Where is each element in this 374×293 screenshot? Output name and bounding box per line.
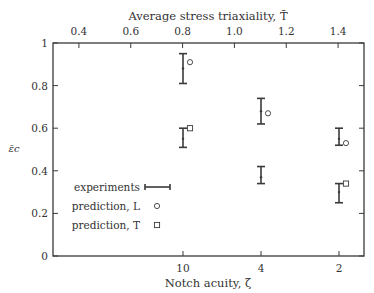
x2-tick-label: 1.2: [278, 25, 295, 37]
y-tick-label: 0.8: [31, 80, 48, 92]
prediction-L-marker: [187, 60, 192, 65]
chart: 00.20.40.60.8110420.40.60.81.01.21.4expe…: [0, 0, 374, 293]
x2-axis-title: Average stress triaxiality, T̄: [127, 9, 288, 23]
y-tick-label: 0.4: [31, 165, 48, 177]
x2-tick-label: 0.6: [122, 25, 139, 37]
error-bar-mid: [338, 191, 340, 193]
x-tick-label: 2: [336, 262, 343, 274]
x2-tick-label: 0.8: [174, 25, 191, 37]
y-axis-title: ε̄c: [9, 143, 20, 154]
y-tick-label: 1: [41, 37, 48, 49]
x-tick-label: 4: [258, 262, 265, 274]
error-bar-mid: [338, 138, 340, 140]
error-bar-mid: [182, 67, 184, 69]
x2-tick-label: 1.0: [226, 25, 243, 37]
y-tick-label: 0.6: [31, 122, 48, 134]
y-tick-label: 0: [41, 250, 48, 262]
prediction-T-marker: [187, 126, 192, 131]
error-bar-mid: [260, 110, 262, 112]
y-tick-label: 0.2: [31, 207, 48, 219]
legend-label-prediction-T: prediction, T: [72, 219, 140, 231]
x-axis-title: Notch acuity, ζ: [165, 276, 252, 290]
legend-label-experiments: experiments: [74, 181, 140, 193]
prediction-L-marker: [343, 141, 348, 146]
x2-tick-label: 0.4: [71, 25, 88, 37]
legend-label-prediction-L: prediction, L: [72, 200, 140, 212]
x2-tick-label: 1.4: [330, 25, 347, 37]
x-tick-label: 10: [176, 262, 189, 274]
prediction-L-marker: [265, 111, 270, 116]
error-bar-mid: [260, 176, 262, 178]
prediction-T-marker: [343, 181, 348, 186]
legend-square-icon: [154, 222, 159, 227]
plot-area: 00.20.40.60.8110420.40.60.81.01.21.4expe…: [31, 25, 364, 274]
error-bar-mid: [182, 138, 184, 140]
legend-circle-icon: [154, 203, 159, 208]
